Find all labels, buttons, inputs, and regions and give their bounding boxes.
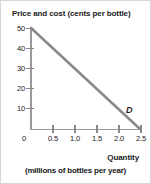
x-tick-label: 2.0	[108, 134, 130, 143]
x-tick-mark	[96, 125, 98, 133]
x-axis-subtitle: (millions of bottles per year)	[1, 166, 150, 175]
y-tick-label: 20	[5, 84, 25, 93]
y-tick-label: 40	[5, 44, 25, 53]
y-tick-label: 30	[5, 64, 25, 73]
y-tick-mark	[26, 28, 34, 30]
y-axis-line	[30, 27, 32, 130]
x-tick-label: 1.5	[86, 134, 108, 143]
x-tick-mark	[118, 125, 120, 133]
demand-curve-chart: Price and cost (cents per bottle) 50 40 …	[0, 0, 151, 184]
y-tick-mark	[26, 108, 34, 110]
y-tick-mark	[26, 68, 34, 70]
y-tick-label: 50	[5, 24, 25, 33]
y-tick-mark	[26, 48, 34, 50]
y-tick-mark	[26, 88, 34, 90]
y-tick-label: 10	[5, 104, 25, 113]
x-tick-label: 0.5	[42, 134, 64, 143]
x-axis-line	[30, 129, 142, 131]
x-tick-label: 0	[13, 134, 35, 143]
x-tick-mark	[52, 125, 54, 133]
demand-curve-annotation: D	[126, 105, 133, 115]
x-tick-mark	[140, 125, 142, 133]
x-tick-label: 1.0	[64, 134, 86, 143]
x-axis-title: Quantity	[1, 153, 139, 162]
x-tick-mark	[74, 125, 76, 133]
x-tick-label: 2.5	[130, 134, 151, 143]
